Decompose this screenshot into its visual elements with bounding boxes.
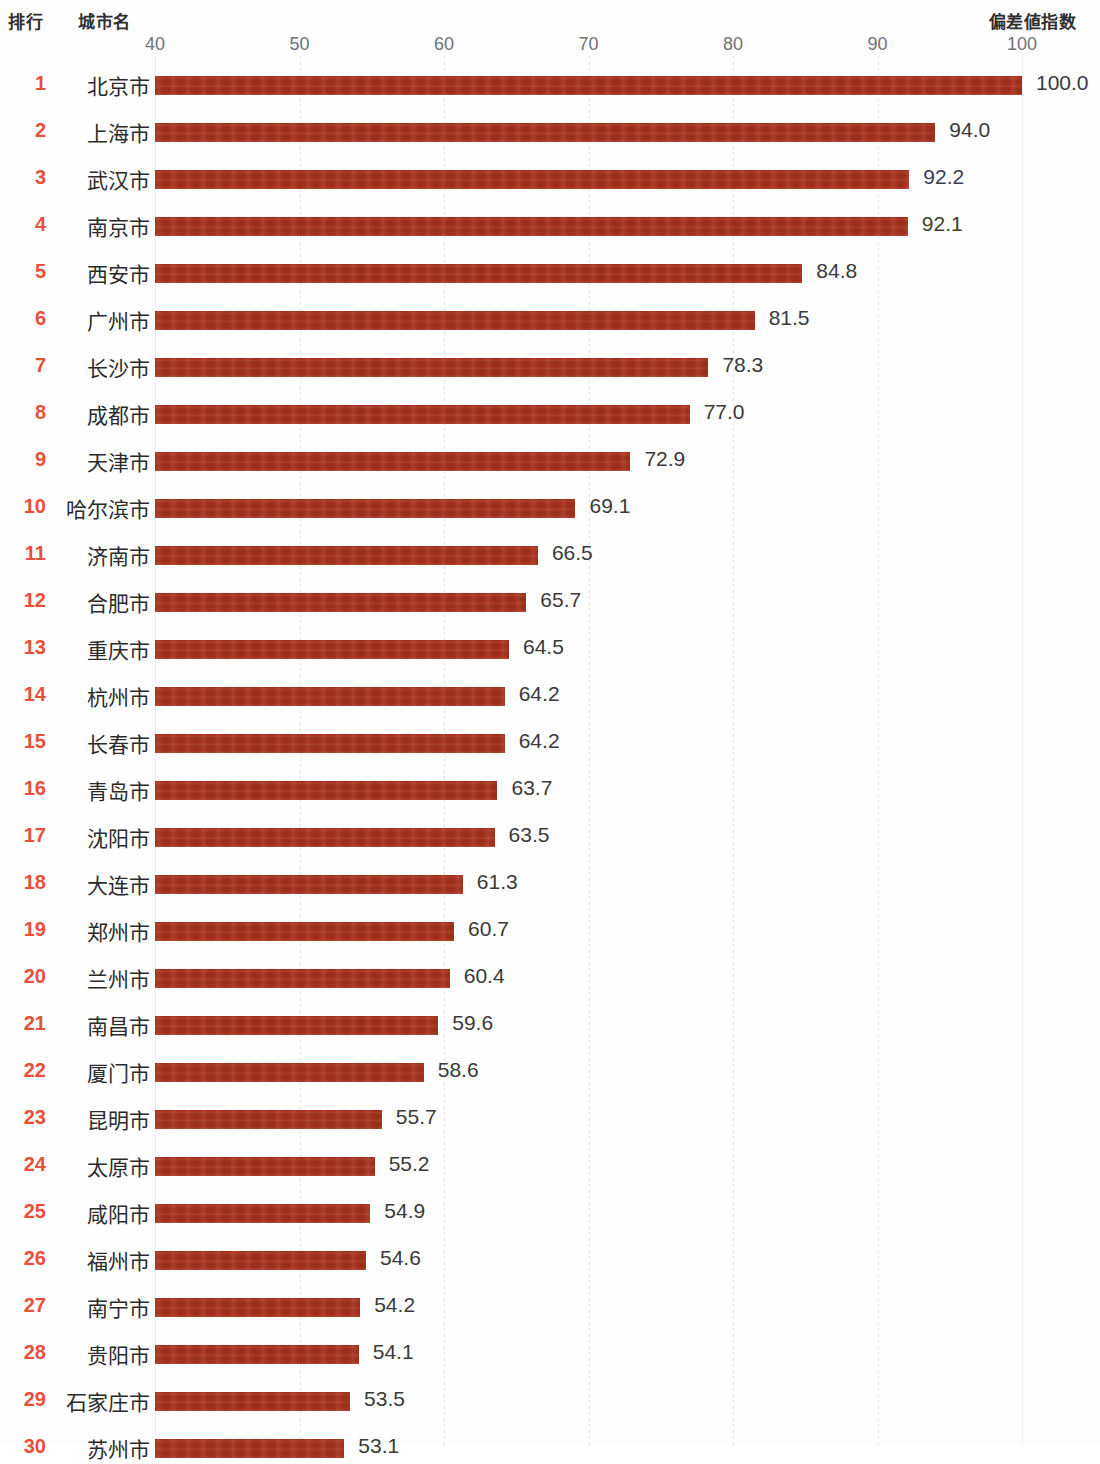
value-bar <box>155 1204 370 1223</box>
city-name: 哈尔滨市 <box>52 493 150 523</box>
value-label: 92.2 <box>923 165 964 189</box>
rank-number: 27 <box>0 1294 46 1317</box>
value-label: 55.7 <box>396 1105 437 1129</box>
table-row[interactable]: 30苏州市53.1 <box>0 1425 1100 1464</box>
value-label: 92.1 <box>922 212 963 236</box>
table-row[interactable]: 16青岛市63.7 <box>0 767 1100 814</box>
table-row[interactable]: 13重庆市64.5 <box>0 626 1100 673</box>
city-name: 长沙市 <box>52 352 150 382</box>
city-name: 太原市 <box>52 1151 150 1181</box>
value-bar <box>155 358 708 377</box>
value-label: 54.2 <box>374 1293 415 1317</box>
city-name: 重庆市 <box>52 634 150 664</box>
table-row[interactable]: 14杭州市64.2 <box>0 673 1100 720</box>
value-bar <box>155 1345 359 1364</box>
city-name: 广州市 <box>52 305 150 335</box>
table-row[interactable]: 15长春市64.2 <box>0 720 1100 767</box>
value-label: 60.4 <box>464 964 505 988</box>
value-bar <box>155 1298 360 1317</box>
value-label: 63.5 <box>509 823 550 847</box>
table-row[interactable]: 20兰州市60.4 <box>0 955 1100 1002</box>
value-label: 84.8 <box>816 259 857 283</box>
value-bar <box>155 734 505 753</box>
value-label: 60.7 <box>468 917 509 941</box>
value-bar <box>155 170 909 189</box>
table-row[interactable]: 8成都市77.0 <box>0 391 1100 438</box>
rank-number: 18 <box>0 871 46 894</box>
table-row[interactable]: 23昆明市55.7 <box>0 1096 1100 1143</box>
value-label: 78.3 <box>722 353 763 377</box>
table-row[interactable]: 11济南市66.5 <box>0 532 1100 579</box>
rank-number: 29 <box>0 1388 46 1411</box>
value-bar <box>155 593 526 612</box>
city-name: 厦门市 <box>52 1057 150 1087</box>
table-row[interactable]: 28贵阳市54.1 <box>0 1331 1100 1378</box>
rank-number: 6 <box>0 307 46 330</box>
value-label: 59.6 <box>452 1011 493 1035</box>
value-label: 100.0 <box>1036 71 1089 95</box>
table-row[interactable]: 3武汉市92.2 <box>0 156 1100 203</box>
value-bar <box>155 875 463 894</box>
rank-number: 5 <box>0 260 46 283</box>
axis-tick-label-70: 70 <box>578 34 598 55</box>
rank-number: 15 <box>0 730 46 753</box>
city-name: 贵阳市 <box>52 1339 150 1369</box>
chart-x-axis: 405060708090100 <box>0 34 1100 56</box>
value-bar <box>155 217 908 236</box>
table-row[interactable]: 18大连市61.3 <box>0 861 1100 908</box>
table-row[interactable]: 25咸阳市54.9 <box>0 1190 1100 1237</box>
city-name: 青岛市 <box>52 775 150 805</box>
table-row[interactable]: 26福州市54.6 <box>0 1237 1100 1284</box>
table-row[interactable]: 7长沙市78.3 <box>0 344 1100 391</box>
city-name: 福州市 <box>52 1245 150 1275</box>
city-name: 石家庄市 <box>52 1386 150 1416</box>
value-bar <box>155 1439 344 1458</box>
value-label: 72.9 <box>644 447 685 471</box>
rank-number: 30 <box>0 1435 46 1458</box>
table-row[interactable]: 10哈尔滨市69.1 <box>0 485 1100 532</box>
axis-tick-label-90: 90 <box>867 34 887 55</box>
table-row[interactable]: 19郑州市60.7 <box>0 908 1100 955</box>
table-row[interactable]: 27南宁市54.2 <box>0 1284 1100 1331</box>
city-name: 合肥市 <box>52 587 150 617</box>
rank-number: 2 <box>0 119 46 142</box>
value-label: 55.2 <box>389 1152 430 1176</box>
rank-number: 12 <box>0 589 46 612</box>
table-row[interactable]: 29石家庄市53.5 <box>0 1378 1100 1425</box>
value-label: 65.7 <box>540 588 581 612</box>
value-bar <box>155 687 505 706</box>
header-rank-label: 排行 <box>8 8 68 33</box>
value-bar <box>155 1016 438 1035</box>
value-bar <box>155 640 509 659</box>
rank-number: 8 <box>0 401 46 424</box>
value-label: 64.5 <box>523 635 564 659</box>
table-row[interactable]: 9天津市72.9 <box>0 438 1100 485</box>
value-bar <box>155 1110 382 1129</box>
value-label: 94.0 <box>949 118 990 142</box>
table-row[interactable]: 5西安市84.8 <box>0 250 1100 297</box>
city-name: 南昌市 <box>52 1010 150 1040</box>
table-row[interactable]: 4南京市92.1 <box>0 203 1100 250</box>
table-row[interactable]: 1北京市100.0 <box>0 62 1100 109</box>
rank-number: 22 <box>0 1059 46 1082</box>
rank-number: 10 <box>0 495 46 518</box>
rank-number: 17 <box>0 824 46 847</box>
table-row[interactable]: 12合肥市65.7 <box>0 579 1100 626</box>
table-row[interactable]: 6广州市81.5 <box>0 297 1100 344</box>
value-bar <box>155 1063 424 1082</box>
value-label: 58.6 <box>438 1058 479 1082</box>
table-row[interactable]: 22厦门市58.6 <box>0 1049 1100 1096</box>
table-row[interactable]: 21南昌市59.6 <box>0 1002 1100 1049</box>
value-label: 63.7 <box>511 776 552 800</box>
value-label: 53.5 <box>364 1387 405 1411</box>
value-bar <box>155 546 538 565</box>
value-label: 69.1 <box>589 494 630 518</box>
table-row[interactable]: 2上海市94.0 <box>0 109 1100 156</box>
table-row[interactable]: 17沈阳市63.5 <box>0 814 1100 861</box>
rank-number: 14 <box>0 683 46 706</box>
rank-number: 25 <box>0 1200 46 1223</box>
table-row[interactable]: 24太原市55.2 <box>0 1143 1100 1190</box>
value-bar <box>155 311 755 330</box>
rank-number: 19 <box>0 918 46 941</box>
value-bar <box>155 828 495 847</box>
